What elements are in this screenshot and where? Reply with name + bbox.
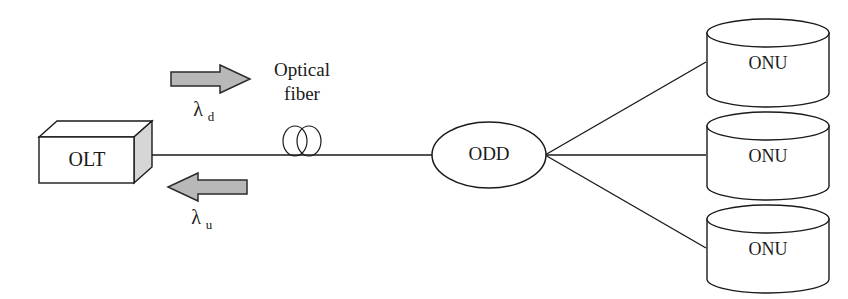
onu-2-top-ellipse [707,112,829,140]
onu-3-top-ellipse [707,205,829,233]
onu-1-label: ONU [749,53,788,73]
downstream-lambda-label: λ [193,98,203,120]
downstream-arrow-group: λ d [171,65,250,124]
drop-line-onu-3 [545,155,706,248]
fiber-loop-right-icon [297,126,321,156]
pon-topology-diagram: OLT λ d λ u Optical fiber ODD [0,0,848,299]
olt-label: OLT [68,148,105,170]
upstream-arrow-group: λ u [168,173,247,232]
optical-fiber-node: Optical fiber [274,59,330,156]
upstream-lambda-label: λ [191,206,201,228]
odd-label: ODD [468,143,509,164]
onu-2-label: ONU [749,146,788,166]
onu-1-top-ellipse [707,19,829,47]
diagram-canvas: OLT λ d λ u Optical fiber ODD [0,0,848,299]
drop-line-onu-1 [545,62,706,155]
onu-3-label: ONU [749,239,788,259]
olt-top-face [39,121,152,137]
onu-node-2: ONU [707,112,829,200]
onu-node-3: ONU [707,205,829,293]
upstream-lambda-subscript: u [206,217,213,232]
fiber-label-line2: fiber [284,83,321,104]
fiber-loop-left-icon [283,126,307,156]
fiber-label-line1: Optical [274,59,330,80]
onu-node-1: ONU [707,19,829,107]
downstream-lambda-subscript: d [208,109,215,124]
upstream-arrow-icon [168,173,247,201]
odd-node: ODD [432,122,546,188]
downstream-arrow-icon [171,65,250,93]
olt-node: OLT [39,121,152,183]
